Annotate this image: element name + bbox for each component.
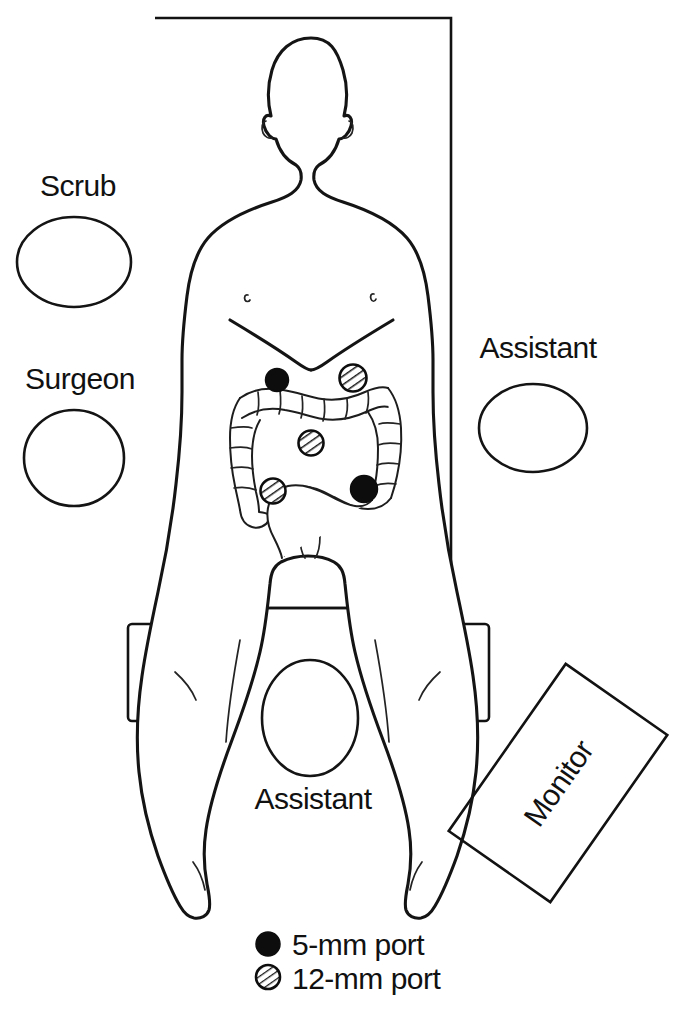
port-placement-figure: Scrub Surgeon Assistant Assistant Monito… — [0, 0, 677, 1015]
personnel-scrub[interactable]: Scrub — [17, 169, 131, 307]
personnel-surgeon[interactable]: Surgeon — [24, 362, 135, 506]
scrub-position-circle[interactable] — [17, 217, 131, 307]
figure-canvas: Scrub Surgeon Assistant Assistant Monito… — [0, 0, 677, 1015]
legend: 5-mm port 12-mm port — [256, 928, 442, 995]
assistant-foot-position-circle[interactable] — [262, 660, 358, 776]
personnel-assistant-foot[interactable]: Assistant — [254, 660, 372, 815]
legend-marker-12mm — [256, 965, 280, 989]
port-right-upper-quadrant-12mm — [340, 365, 367, 392]
assistant-foot-label: Assistant — [254, 782, 372, 815]
monitor[interactable]: Monitor — [449, 664, 668, 902]
legend-item-12mm: 12-mm port — [256, 962, 442, 995]
legend-item-5mm: 5-mm port — [256, 928, 425, 961]
legend-label-12mm: 12-mm port — [292, 962, 442, 995]
port-left-upper-quadrant-5mm — [266, 369, 289, 392]
scrub-label: Scrub — [40, 169, 116, 202]
surgeon-label: Surgeon — [25, 362, 135, 395]
monitor-label: Monitor — [517, 734, 600, 832]
personnel-assistant-right[interactable]: Assistant — [479, 331, 598, 472]
assistant-right-label: Assistant — [479, 331, 597, 364]
port-left-lower-quadrant-12mm — [261, 479, 286, 504]
port-umbilical-12mm — [299, 431, 324, 456]
surgeon-position-circle[interactable] — [24, 410, 124, 506]
legend-label-5mm: 5-mm port — [292, 928, 425, 961]
port-right-lower-quadrant-5mm — [351, 476, 378, 503]
assistant-right-position-circle[interactable] — [479, 384, 587, 472]
legend-marker-5mm — [256, 932, 280, 956]
